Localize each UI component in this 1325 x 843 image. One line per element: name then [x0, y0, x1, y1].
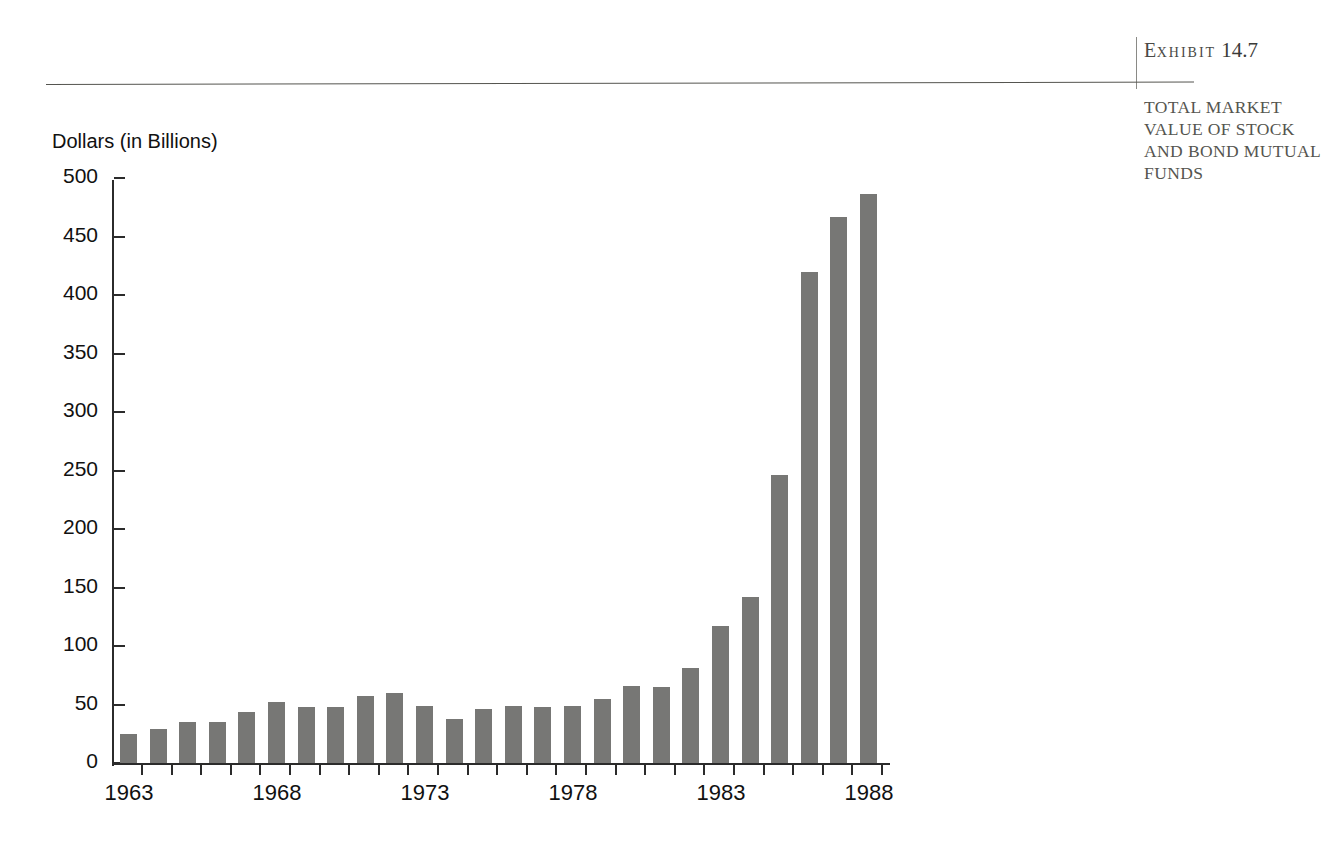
x-tick-mark	[526, 764, 528, 775]
bar-1967	[238, 712, 255, 763]
bar-1984	[742, 597, 759, 763]
x-axis-label-1988: 1988	[845, 780, 894, 806]
bar-1977	[534, 707, 551, 763]
y-tick-50: 50	[112, 704, 125, 706]
y-tick-label: 200	[63, 517, 98, 537]
x-tick-mark	[585, 764, 587, 775]
y-tick-label: 150	[63, 576, 98, 596]
y-tick-mark	[114, 294, 125, 296]
x-tick-mark	[259, 764, 261, 775]
bar-1972	[386, 693, 403, 763]
y-tick-label: 250	[63, 459, 98, 479]
y-tick-label: 50	[75, 693, 98, 713]
x-tick-mark	[319, 764, 321, 775]
y-tick-mark	[114, 645, 125, 647]
exhibit-caption: TOTAL MARKET VALUE OF STOCK AND BOND MUT…	[1144, 96, 1325, 184]
x-tick-mark	[289, 764, 291, 775]
y-tick-150: 150	[112, 587, 125, 589]
y-tick-mark	[114, 528, 125, 530]
bar-1975	[475, 709, 492, 763]
bar-1964	[150, 729, 167, 763]
y-tick-300: 300	[112, 411, 125, 413]
y-tick-label: 300	[63, 400, 98, 420]
y-tick-mark	[114, 353, 125, 355]
bar-1988	[860, 194, 877, 763]
y-tick-label: 0	[86, 751, 98, 771]
plot-area: 050100150200250300350400450500 196319681…	[112, 180, 890, 765]
bar-1986	[801, 272, 818, 763]
exhibit-number: 14.7	[1221, 38, 1258, 62]
bar-1979	[594, 699, 611, 763]
x-axis-label-1973: 1973	[401, 780, 450, 806]
y-tick-250: 250	[112, 470, 125, 472]
exhibit-header: EXHIBIT14.7	[1144, 38, 1325, 63]
bar-1974	[446, 719, 463, 763]
y-tick-mark	[114, 236, 125, 238]
x-tick-mark	[200, 764, 202, 775]
bar-1968	[268, 702, 285, 763]
bar-1983	[712, 626, 729, 763]
x-tick-mark	[171, 764, 173, 775]
x-tick-mark	[467, 764, 469, 775]
y-axis-line	[112, 180, 114, 766]
x-tick-mark	[348, 764, 350, 775]
y-tick-label: 450	[63, 225, 98, 245]
bar-1965	[179, 722, 196, 763]
y-tick-mark	[114, 177, 125, 179]
y-tick-350: 350	[112, 353, 125, 355]
y-axis-title: Dollars (in Billions)	[52, 130, 218, 153]
exhibit-label: EXHIBIT14.7	[1144, 42, 1258, 61]
x-tick-mark	[733, 764, 735, 775]
bar-1980	[623, 686, 640, 763]
y-tick-mark	[114, 470, 125, 472]
bar-1970	[327, 707, 344, 763]
bar-chart: Dollars (in Billions) 050100150200250300…	[0, 0, 960, 843]
x-tick-mark	[851, 764, 853, 775]
x-tick-mark	[555, 764, 557, 775]
bar-1987	[830, 217, 847, 763]
x-tick-mark	[615, 764, 617, 775]
y-tick-label: 500	[63, 166, 98, 186]
x-tick-mark	[763, 764, 765, 775]
exhibit-label-prefix: E	[1144, 39, 1157, 61]
bar-1978	[564, 706, 581, 763]
exhibit-label-rest: XHIBIT	[1157, 45, 1216, 60]
y-tick-mark	[114, 704, 125, 706]
x-axis-label-1978: 1978	[549, 780, 598, 806]
x-axis-label-1963: 1963	[105, 780, 154, 806]
y-tick-label: 400	[63, 283, 98, 303]
bar-1973	[416, 706, 433, 763]
bar-1963	[120, 734, 137, 763]
bar-1981	[653, 687, 670, 763]
y-tick-label: 350	[63, 342, 98, 362]
x-tick-mark	[437, 764, 439, 775]
x-tick-mark	[822, 764, 824, 775]
x-axis-label-1983: 1983	[697, 780, 746, 806]
x-tick-mark	[141, 764, 143, 775]
x-tick-mark	[378, 764, 380, 775]
y-tick-200: 200	[112, 528, 125, 530]
y-tick-400: 400	[112, 294, 125, 296]
y-tick-450: 450	[112, 236, 125, 238]
bar-1971	[357, 696, 374, 763]
bar-1969	[298, 707, 315, 763]
y-tick-500: 500	[112, 177, 125, 179]
bar-1966	[209, 722, 226, 763]
x-axis-line	[112, 763, 890, 765]
bar-1982	[682, 668, 699, 763]
x-axis-label-1968: 1968	[253, 780, 302, 806]
x-tick-mark	[230, 764, 232, 775]
x-tick-mark	[644, 764, 646, 775]
x-tick-mark	[792, 764, 794, 775]
y-tick-100: 100	[112, 645, 125, 647]
x-tick-mark	[703, 764, 705, 775]
x-tick-mark	[496, 764, 498, 775]
y-tick-mark	[114, 587, 125, 589]
x-tick-mark	[407, 764, 409, 775]
x-tick-mark	[881, 764, 883, 775]
y-tick-mark	[114, 411, 125, 413]
bar-1985	[771, 475, 788, 763]
y-tick-label: 100	[63, 634, 98, 654]
x-tick-mark	[674, 764, 676, 775]
bar-1976	[505, 706, 522, 763]
